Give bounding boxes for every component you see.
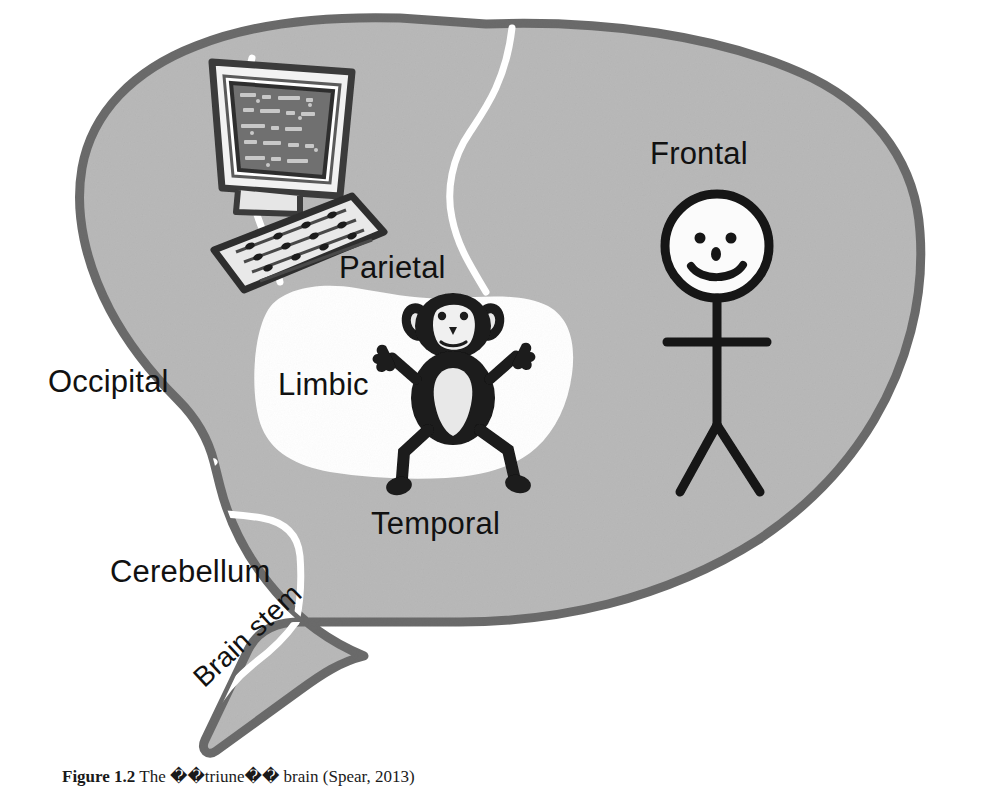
label-frontal: Frontal <box>650 138 748 169</box>
label-cerebellum: Cerebellum <box>110 556 271 587</box>
label-occipital: Occipital <box>48 366 169 397</box>
figure-caption-text: The ��triune�� brain (Spear, 2013) <box>139 767 414 786</box>
monkey-eye-right <box>460 312 468 320</box>
label-temporal: Temporal <box>371 508 500 539</box>
stick-figure-head <box>665 194 769 298</box>
label-limbic: Limbic <box>278 369 369 400</box>
stick-figure-eye-right <box>726 233 737 244</box>
figure-caption-number: Figure 1.2 <box>62 767 135 786</box>
stick-figure-nose <box>711 247 721 261</box>
monkey-eye-left <box>438 312 446 320</box>
label-parietal: Parietal <box>339 252 446 283</box>
stick-figure-eye-left <box>695 233 706 244</box>
divider-cerebellum-upper <box>96 462 214 524</box>
figure-caption: Figure 1.2 The ��triune�� brain (Spear, … <box>62 766 415 787</box>
monitor-icon <box>212 62 352 214</box>
